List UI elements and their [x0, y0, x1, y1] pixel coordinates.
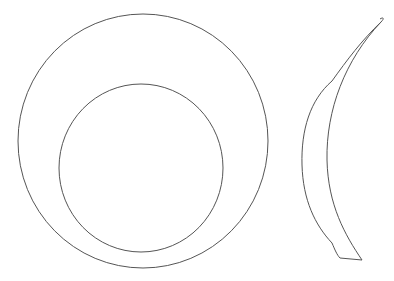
plan-view: [18, 14, 268, 268]
outer-circle: [18, 14, 268, 268]
inner-circle: [59, 84, 223, 252]
profile-view: [302, 18, 383, 260]
technical-drawing: [0, 0, 394, 281]
profile-outline: [302, 18, 383, 260]
